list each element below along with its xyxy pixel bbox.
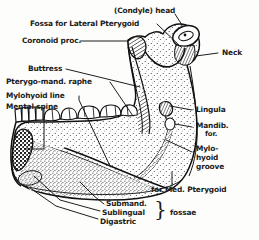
label-fossae: fossae	[170, 209, 196, 217]
label-lingula: Lingula	[196, 106, 226, 114]
label-condyle-head: (Condyle) head	[114, 7, 175, 15]
label-fossa-lateral-pterygoid: Fossa for Lateral Pterygoid	[30, 20, 139, 28]
label-coronoid-process: Coronoid proc.	[22, 37, 81, 45]
label-mylohyoid-line: Mylohyoid line	[6, 92, 65, 100]
label-digastric-fossa: Digastric	[100, 218, 136, 226]
label-mental-spine: Mental spine	[6, 103, 58, 111]
fossae-brace: }	[154, 199, 167, 219]
label-for-medial-pterygoid: for Med. Pterygoid	[151, 186, 226, 194]
label-mylohyoid-groove-line3: groove	[196, 163, 224, 171]
label-mandibular-foramen-line2: for.	[205, 131, 217, 139]
label-buttress: Buttress	[28, 65, 62, 73]
mandible-figure: (Condyle) head Fossa for Lateral Pterygo…	[0, 0, 259, 240]
label-pterygo-mandibular-raphe: Pterygo-mand. raphe	[6, 78, 92, 86]
label-neck: Neck	[222, 49, 242, 57]
